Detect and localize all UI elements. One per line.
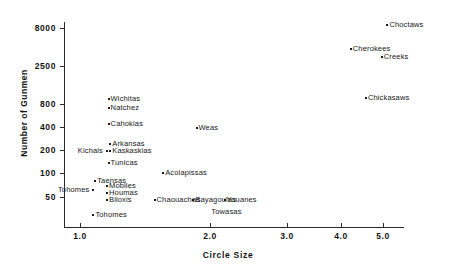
y-tick-label: 8000	[14, 24, 56, 32]
data-point-label: Tohomes	[58, 186, 89, 193]
point-marker-icon	[108, 162, 110, 164]
y-tick-mark	[60, 28, 65, 29]
data-point-label: Biloxis	[109, 196, 132, 203]
data-point-label: Kaskaskias	[112, 147, 151, 154]
point-marker-icon	[108, 98, 110, 100]
point-marker-icon	[106, 192, 108, 194]
data-point-label: Towasas	[211, 208, 241, 215]
point-marker-icon	[224, 199, 226, 201]
data-point-label: Chickasaws	[368, 94, 410, 101]
point-marker-icon	[106, 185, 108, 187]
data-point-label: Tohomes	[95, 211, 126, 218]
point-marker-icon	[92, 189, 94, 191]
point-marker-icon	[386, 24, 388, 26]
y-tick-mark	[60, 66, 65, 67]
data-point-label: Acolapissas	[165, 169, 207, 176]
point-marker-icon	[108, 107, 110, 109]
x-tick-mark	[80, 223, 81, 228]
point-marker-icon	[94, 180, 96, 182]
x-tick-mark	[341, 223, 342, 228]
data-point-label: Youanes	[227, 196, 257, 203]
point-marker-icon	[92, 214, 94, 216]
y-axis-title: Number of Gunmen	[19, 43, 29, 183]
data-point-label: Choctaws	[389, 21, 423, 28]
point-marker-icon	[108, 123, 110, 125]
point-marker-icon	[154, 199, 156, 201]
data-point-label: Cherokees	[353, 45, 391, 52]
y-tick-mark	[60, 150, 65, 151]
x-tick-label: 4.0	[321, 232, 361, 241]
x-tick-label: 3.0	[267, 232, 307, 241]
point-marker-icon	[192, 199, 194, 201]
point-marker-icon	[196, 127, 198, 129]
point-marker-icon	[109, 143, 111, 145]
x-tick-label: 2.0	[190, 232, 230, 241]
point-marker-icon	[106, 199, 108, 201]
point-marker-icon	[106, 150, 108, 152]
x-tick-mark	[210, 223, 211, 228]
y-tick-mark	[60, 197, 65, 198]
y-tick-label: 50	[14, 193, 56, 201]
x-tick-label: 1.0	[60, 232, 100, 241]
x-axis-title: Circle Size	[0, 250, 456, 260]
x-axis-line	[64, 227, 404, 228]
data-point-label: Tunicas	[111, 159, 138, 166]
data-point-label: Wichitas	[111, 95, 141, 102]
data-point-label: Natchez	[111, 104, 140, 111]
data-point-label: Cahokias	[111, 120, 143, 127]
point-marker-icon	[109, 150, 111, 152]
y-tick-mark	[60, 173, 65, 174]
x-tick-mark	[383, 223, 384, 228]
plot-area: 8000250080040020010050 1.02.03.04.05.0 C…	[0, 0, 456, 276]
y-tick-mark	[60, 127, 65, 128]
point-marker-icon	[381, 56, 383, 58]
data-point-label: Creeks	[384, 53, 409, 60]
scatter-chart: 8000250080040020010050 1.02.03.04.05.0 C…	[0, 0, 456, 276]
data-point-label: Kichais	[78, 147, 103, 154]
point-marker-icon	[162, 172, 164, 174]
data-point-label: Weas	[199, 124, 219, 131]
x-tick-mark	[287, 223, 288, 228]
point-marker-icon	[365, 97, 367, 99]
point-marker-icon	[350, 48, 352, 50]
x-tick-label: 5.0	[363, 232, 403, 241]
y-tick-mark	[60, 104, 65, 105]
